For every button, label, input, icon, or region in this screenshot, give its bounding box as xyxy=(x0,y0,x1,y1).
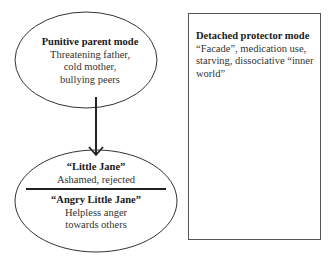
punitive-parent-line-1: Threatening father, xyxy=(30,49,150,62)
detached-protector-node: Detached protector mode “Facade”, medica… xyxy=(196,30,320,80)
little-jane-line: Ashamed, rejected xyxy=(36,174,156,187)
angry-little-jane-line-1: Helpless anger xyxy=(31,207,161,220)
detached-protector-title: Detached protector mode xyxy=(196,30,320,43)
angry-little-jane-title: “Angry Little Jane” xyxy=(31,194,161,207)
punitive-parent-title: Punitive parent mode xyxy=(30,36,150,49)
detached-protector-body: “Facade”, medication use, starving, diss… xyxy=(196,43,320,81)
punitive-parent-line-2: cold mother, xyxy=(30,61,150,74)
angry-little-jane-node: “Angry Little Jane” Helpless anger towar… xyxy=(31,194,161,232)
little-jane-node: “Little Jane” Ashamed, rejected xyxy=(36,161,156,186)
punitive-parent-line-3: bullying peers xyxy=(30,74,150,87)
little-jane-title: “Little Jane” xyxy=(36,161,156,174)
punitive-parent-node: Punitive parent mode Threatening father,… xyxy=(30,36,150,86)
angry-little-jane-line-2: towards others xyxy=(31,219,161,232)
